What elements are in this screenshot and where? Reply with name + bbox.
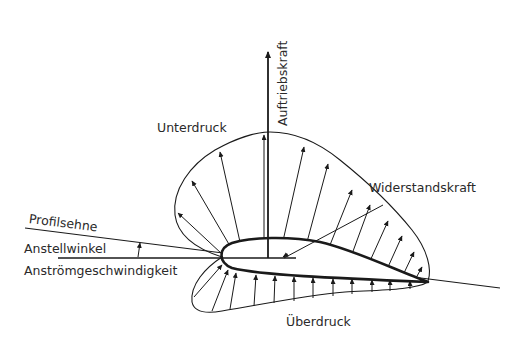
airfoil-pressure-diagram bbox=[0, 0, 508, 350]
angle-of-attack-arrow bbox=[138, 243, 140, 257]
lift-force-label: Auftriebskraft bbox=[277, 41, 290, 126]
angle-of-attack-label: Anstellwinkel bbox=[24, 243, 106, 256]
overpressure-label: Überdruck bbox=[286, 316, 351, 329]
suction-label: Unterdruck bbox=[157, 122, 227, 135]
inflow-velocity-label: Anströmgeschwindigkeit bbox=[24, 265, 177, 278]
airfoil-profile bbox=[222, 238, 429, 282]
drag-force-label: Widerstandskraft bbox=[369, 182, 476, 195]
